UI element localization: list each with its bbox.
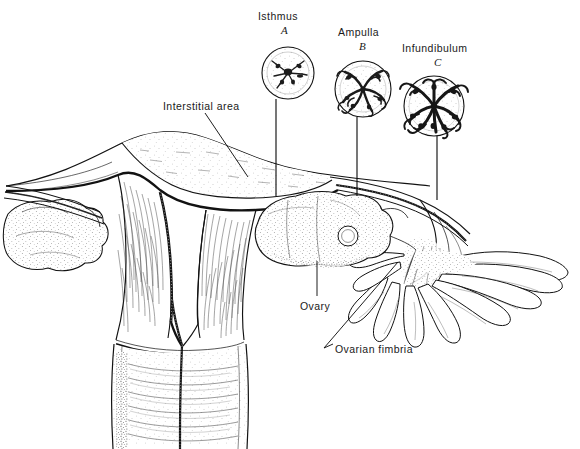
anatomy-drawing	[0, 0, 580, 449]
callout-label-interstitial-area: Interstitial area	[163, 100, 240, 112]
callout-label-ovarian-fimbria: Ovarian fimbria	[335, 343, 413, 355]
callout-label-ovary: Ovary	[300, 300, 330, 312]
left-ovary	[3, 199, 108, 270]
inset-circle-isthmus	[262, 47, 314, 99]
inset-circle-infundibulum	[400, 76, 468, 138]
cervix	[112, 344, 249, 449]
inset-letter-ampulla: B	[359, 40, 366, 52]
inset-letter-isthmus: A	[281, 24, 288, 36]
inset-circle-ampulla	[335, 61, 391, 117]
uterus	[5, 132, 430, 449]
inset-label-ampulla: Ampulla	[338, 26, 379, 38]
anatomy-figure: Isthmus A Ampulla B Infundibulum C Inter…	[0, 0, 580, 449]
inset-label-infundibulum: Infundibulum	[402, 42, 468, 54]
inset-label-isthmus: Isthmus	[258, 10, 298, 22]
ovarian-follicle	[338, 226, 358, 246]
fimbriae	[348, 250, 568, 347]
inset-letter-infundibulum: C	[434, 56, 441, 68]
